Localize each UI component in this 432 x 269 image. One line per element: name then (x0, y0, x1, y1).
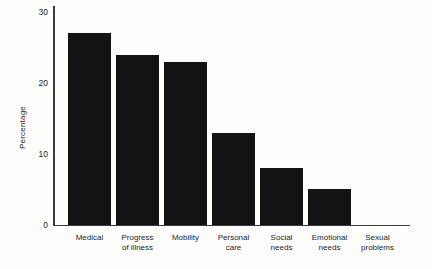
bar (116, 55, 159, 225)
bar (308, 189, 351, 225)
x-axis-category-label: Sexual problems (346, 233, 410, 253)
bar (68, 33, 111, 225)
bar (260, 168, 303, 225)
y-tick-label: 20 (0, 78, 48, 88)
bar (164, 62, 207, 225)
y-tick-label: 10 (0, 149, 48, 159)
bar-chart-figure: Percentage 0102030MedicalProgress of ill… (0, 0, 432, 269)
y-axis-line (53, 6, 55, 226)
y-tick-label: 0 (0, 220, 48, 230)
bar (212, 133, 255, 225)
y-tick-label: 30 (0, 7, 48, 17)
